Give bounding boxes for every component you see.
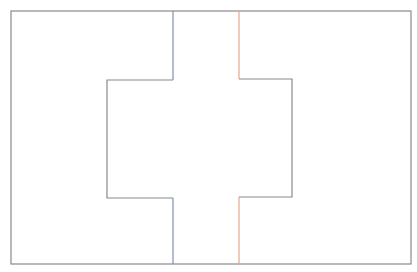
diagram-canvas	[0, 0, 417, 272]
background	[0, 0, 417, 272]
